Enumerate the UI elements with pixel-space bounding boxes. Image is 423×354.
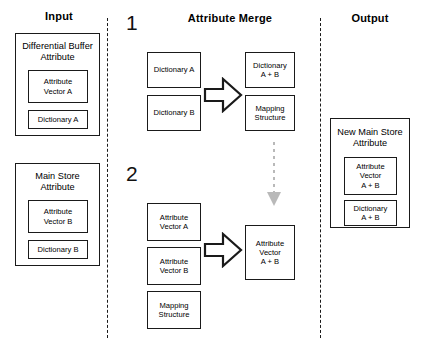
merge-step2-attribute-vector-a-line2: Vector A [160, 222, 188, 231]
merge-step1-dictionary-a-line1: Dictionary A [154, 65, 195, 74]
output-attribute-vector-ab-line2: Vector [356, 171, 384, 180]
step1-to-step2-flow-arrow-icon [263, 142, 285, 208]
divider-merge-output [320, 18, 321, 338]
merge-step1-dictionary-ab-line2: A + B [253, 70, 287, 79]
merge-step2-mapping-structure-line2: Structure [159, 310, 190, 319]
new-main-store-title-line2: Attribute [331, 138, 409, 149]
differential-buffer-title-line1: Differential Buffer [16, 41, 99, 52]
main-store-title-line2: Attribute [16, 182, 99, 193]
output-dictionary-ab-line2: A + B [354, 213, 388, 222]
merge-step2-attribute-vector-b-line1: Attribute [160, 257, 189, 266]
column-heading-input: Input [14, 10, 104, 22]
merge-step1-dictionary-ab-box: Dictionary A + B [245, 52, 295, 88]
merge-step2-attribute-vector-a-box: Attribute Vector A [147, 203, 201, 241]
main-store-title-line1: Main Store [16, 171, 99, 182]
attribute-vector-b-box: Attribute Vector B [28, 200, 88, 233]
merge-step1-mapping-structure-line2: Structure [255, 113, 286, 122]
step-number-1: 1 [126, 12, 138, 33]
differential-buffer-attribute-box: Differential Buffer Attribute Attribute … [15, 33, 100, 136]
output-attribute-vector-ab-line3: A + B [356, 181, 384, 190]
merge-step1-dictionary-ab-line1: Dictionary [253, 61, 287, 70]
merge-step1-dictionary-b-line1: Dictionary B [154, 108, 195, 117]
dictionary-a-input-box: Dictionary A [28, 110, 88, 129]
dictionary-a-input-label: Dictionary A [36, 115, 81, 124]
dictionary-b-input-label: Dictionary B [36, 245, 81, 254]
merge-step1-dictionary-a-box: Dictionary A [147, 52, 201, 88]
new-main-store-title-line1: New Main Store [331, 127, 409, 138]
merge-step2-attribute-vector-ab-line1: Attribute [256, 239, 284, 248]
attribute-vector-b-line1: Attribute [44, 207, 73, 216]
merge-step2-attribute-vector-ab-line2: Vector [256, 248, 284, 257]
attribute-vector-a-line2: Vector A [44, 87, 72, 96]
main-store-attribute-box: Main Store Attribute Attribute Vector B … [15, 163, 100, 266]
merge-step2-attribute-vector-b-line2: Vector B [160, 266, 189, 275]
merge-step2-attribute-vector-b-box: Attribute Vector B [147, 247, 201, 285]
divider-input-merge [107, 18, 108, 338]
output-attribute-vector-ab-box: Attribute Vector A + B [344, 157, 397, 195]
attribute-vector-a-line1: Attribute [44, 77, 72, 86]
output-dictionary-ab-box: Dictionary A + B [344, 200, 397, 226]
attribute-vector-a-box: Attribute Vector A [28, 70, 88, 103]
output-attribute-vector-ab-line1: Attribute [356, 162, 384, 171]
merge-step1-arrow-icon [203, 77, 243, 113]
column-heading-output: Output [330, 12, 410, 24]
new-main-store-attribute-box: New Main Store Attribute Attribute Vecto… [330, 118, 410, 228]
merge-step2-attribute-vector-ab-box: Attribute Vector A + B [245, 225, 295, 280]
attribute-vector-b-line2: Vector B [44, 217, 73, 226]
merge-step2-mapping-structure-box: Mapping Structure [147, 291, 201, 329]
column-heading-attribute-merge: Attribute Merge [160, 12, 300, 24]
merge-step2-mapping-structure-line1: Mapping [159, 301, 190, 310]
merge-step2-attribute-vector-a-line1: Attribute [160, 213, 188, 222]
diagram-canvas: Input Attribute Merge Output 1 2 Differe… [0, 0, 423, 354]
merge-step2-attribute-vector-ab-line3: A + B [256, 257, 284, 266]
differential-buffer-title-line2: Attribute [16, 52, 99, 63]
merge-step1-dictionary-b-box: Dictionary B [147, 95, 201, 131]
output-dictionary-ab-line1: Dictionary [354, 204, 388, 213]
merge-step1-mapping-structure-line1: Mapping [255, 104, 286, 113]
merge-step1-mapping-structure-box: Mapping Structure [245, 95, 295, 131]
merge-step2-arrow-icon [203, 232, 243, 268]
dictionary-b-input-box: Dictionary B [28, 240, 88, 259]
step-number-2: 2 [126, 163, 138, 184]
